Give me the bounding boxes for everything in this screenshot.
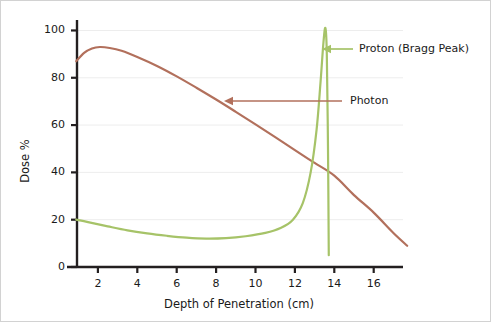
y-axis-title-text: Dose %	[20, 139, 32, 183]
x-tick-label: 10	[236, 278, 276, 289]
axes-group	[67, 20, 403, 267]
annotation-arrows-group	[224, 45, 353, 105]
photon-annotation-label: Photon	[350, 95, 388, 106]
x-axis-title: Depth of Penetration (cm)	[149, 299, 329, 311]
x-tick-label: 16	[354, 278, 394, 289]
gridlines-group	[77, 30, 403, 219]
y-axis-title: Dose %	[19, 131, 33, 191]
y-tick-label: 40	[51, 166, 65, 177]
data-series-group	[76, 28, 407, 255]
x-tick-label: 4	[117, 278, 157, 289]
photon-annotation-arrow-head	[224, 97, 233, 105]
y-tick-label: 80	[51, 72, 65, 83]
y-tick-label: 60	[51, 119, 65, 130]
series-line-1	[76, 28, 329, 255]
proton-annotation-label: Proton (Bragg Peak)	[359, 43, 469, 54]
chart-canvas: 020406080100 246810121416 Dose % Depth o…	[0, 0, 491, 322]
x-tick-label: 2	[78, 278, 118, 289]
x-tick-label: 14	[314, 278, 354, 289]
x-tick-label: 8	[196, 278, 236, 289]
series-line-0	[76, 47, 407, 246]
y-tick-label: 20	[51, 214, 65, 225]
y-tick-label: 100	[44, 24, 65, 35]
x-tick-label: 6	[157, 278, 197, 289]
y-tick-label: 0	[58, 261, 65, 272]
x-tick-label: 12	[275, 278, 315, 289]
